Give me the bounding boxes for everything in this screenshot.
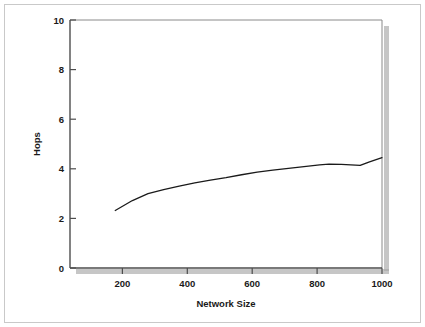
y-tick-label-6: 6 xyxy=(59,114,64,125)
y-axis-tick-labels: 10 8 6 4 2 0 xyxy=(53,15,64,274)
plot-area xyxy=(70,20,382,268)
y-tick-label-2: 2 xyxy=(59,213,64,224)
x-tick-label-400: 400 xyxy=(179,278,195,289)
y-tick-label-10: 10 xyxy=(53,15,64,26)
y-axis-title: Hops xyxy=(31,132,42,156)
y-tick-label-0: 0 xyxy=(59,263,64,274)
y-tick-label-8: 8 xyxy=(59,64,64,75)
hops-vs-network-size-chart: 10 8 6 4 2 0 200 400 600 800 1000 Networ… xyxy=(0,0,425,327)
y-tick-label-4: 4 xyxy=(59,163,65,174)
x-tick-label-600: 600 xyxy=(244,278,260,289)
x-tick-label-1000: 1000 xyxy=(371,278,392,289)
x-axis-title: Network Size xyxy=(196,298,255,309)
figure-root: 10 8 6 4 2 0 200 400 600 800 1000 Networ… xyxy=(0,0,425,327)
x-tick-label-200: 200 xyxy=(114,278,130,289)
x-axis-tick-labels: 200 400 600 800 1000 xyxy=(114,278,392,289)
x-tick-label-800: 800 xyxy=(309,278,325,289)
